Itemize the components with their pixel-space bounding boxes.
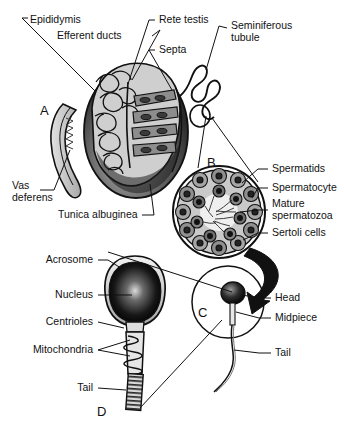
label-spermatids: Spermatids [272, 163, 325, 175]
label-acrosome: Acrosome [0, 254, 93, 266]
panel-letter-a: A [40, 103, 49, 118]
tail [126, 374, 143, 411]
label-spermatocyte: Spermatocyte [272, 182, 337, 194]
panel-letter-d: D [97, 404, 106, 419]
panel-letter-c: C [198, 305, 207, 320]
label-centrioles: Centrioles [0, 316, 93, 328]
label-tail-d: Tail [0, 382, 93, 394]
label-nucleus: Nucleus [0, 289, 93, 301]
label-tail-c: Tail [275, 347, 291, 359]
label-mitochondria: Mitochondria [0, 344, 93, 356]
sperm-midpiece-c [230, 303, 235, 325]
label-tunica-albuginea: Tunica albuginea [58, 209, 138, 221]
label-head: Head [275, 292, 300, 304]
label-epididymis: Epididymis [30, 14, 81, 26]
centrioles [126, 322, 144, 332]
label-sertoli-cells: Sertoli cells [272, 227, 326, 239]
panel-letter-b: B [207, 155, 216, 170]
panel-b-cross-section [173, 166, 265, 258]
label-seminiferous-tubule: Seminiferous tubule [231, 20, 292, 43]
label-septa: Septa [159, 44, 186, 56]
label-rete-testis: Rete testis [159, 14, 209, 26]
label-midpiece: Midpiece [275, 312, 317, 324]
label-vas-deferens: Vas deferens [12, 180, 53, 203]
label-efferent-ducts: Efferent ducts [57, 30, 122, 42]
sperm-head-c [221, 282, 245, 304]
nucleus [109, 262, 161, 322]
label-mature-spermatozoa: Mature spermatozoa [272, 198, 333, 221]
